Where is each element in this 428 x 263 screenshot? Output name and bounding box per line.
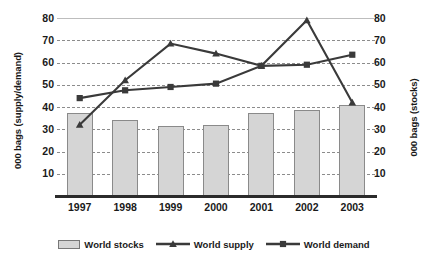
tick-label-right-80: 80 xyxy=(374,13,418,24)
tick-label-left-20: 20 xyxy=(10,146,54,157)
legend-item-world-demand[interactable]: World demand xyxy=(266,239,370,250)
marker-world-supply-2002 xyxy=(303,16,311,23)
tick-label-right-10: 10 xyxy=(374,168,418,179)
legend-swatch-triangle-icon xyxy=(156,239,190,249)
legend-label: World demand xyxy=(304,239,370,250)
x-label-1997: 1997 xyxy=(57,201,102,213)
x-label-2001: 2001 xyxy=(239,201,284,213)
tick-label-right-60: 60 xyxy=(374,57,418,68)
x-label-1998: 1998 xyxy=(102,201,147,213)
tick-label-right-30: 30 xyxy=(374,124,418,135)
legend-label: World supply xyxy=(194,239,254,250)
tick-label-right-20: 20 xyxy=(374,146,418,157)
tick-label-left-50: 50 xyxy=(10,79,54,90)
line-world-demand xyxy=(80,55,353,98)
marker-world-demand-1999 xyxy=(167,84,173,90)
chart-legend: World stocksWorld supplyWorld demand xyxy=(0,234,428,254)
x-axis-line xyxy=(55,195,377,198)
marker-world-demand-2001 xyxy=(258,63,264,69)
marker-world-demand-2003 xyxy=(349,52,355,58)
marker-world-demand-2002 xyxy=(304,62,310,68)
legend-label: World stocks xyxy=(84,239,143,250)
x-label-2003: 2003 xyxy=(330,201,375,213)
legend-item-world-supply[interactable]: World supply xyxy=(156,239,254,250)
y-axis-right-ticks: 8070605040302010 xyxy=(374,0,418,263)
legend-swatch-bar-icon xyxy=(58,240,80,249)
tick-label-right-50: 50 xyxy=(374,79,418,90)
line-world-supply xyxy=(80,20,353,125)
tick-label-left-80: 80 xyxy=(10,13,54,24)
x-label-2002: 2002 xyxy=(284,201,329,213)
tick-label-left-40: 40 xyxy=(10,102,54,113)
tick-label-left-60: 60 xyxy=(10,57,54,68)
marker-world-demand-2000 xyxy=(213,81,219,87)
tick-label-left-70: 70 xyxy=(10,35,54,46)
marker-world-demand-1998 xyxy=(122,87,128,93)
legend-swatch-square-icon xyxy=(266,239,300,249)
x-axis-labels: 1997199819992000200120022003 xyxy=(57,201,375,219)
tick-label-left-30: 30 xyxy=(10,124,54,135)
legend-item-world-stocks[interactable]: World stocks xyxy=(58,239,143,250)
x-label-2000: 2000 xyxy=(193,201,238,213)
marker-world-demand-1997 xyxy=(77,95,83,101)
chart-container: 000 bags (supply/demand) 000 bags (stock… xyxy=(0,0,428,263)
tick-label-right-40: 40 xyxy=(374,102,418,113)
y-axis-left-ticks: 8070605040302010 xyxy=(10,0,54,263)
x-label-1999: 1999 xyxy=(148,201,193,213)
series-layer xyxy=(57,18,375,196)
tick-label-right-70: 70 xyxy=(374,35,418,46)
tick-label-left-10: 10 xyxy=(10,168,54,179)
